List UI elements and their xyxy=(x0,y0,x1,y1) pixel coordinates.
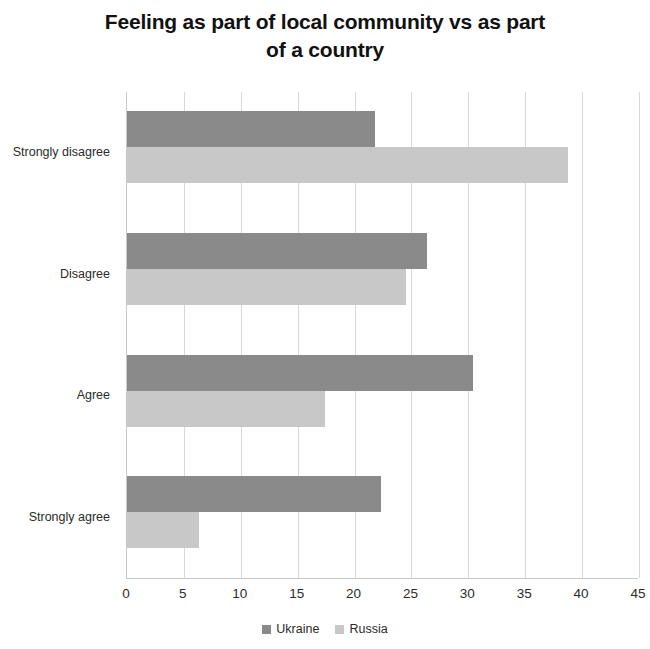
x-axis-tick-20: 20 xyxy=(346,586,361,601)
bar-ukraine-strongly-agree xyxy=(127,476,381,512)
chart-title-line-2: of a country xyxy=(55,36,595,64)
legend-swatch-icon-russia xyxy=(335,625,344,634)
legend-label-ukraine: Ukraine xyxy=(276,622,319,636)
bar-group xyxy=(127,457,638,579)
x-axis-tick-30: 30 xyxy=(460,586,475,601)
bar-russia-disagree xyxy=(127,269,406,305)
plot-area xyxy=(126,92,638,579)
legend-item-ukraine[interactable]: Ukraine xyxy=(262,622,319,636)
legend-label-russia: Russia xyxy=(349,622,387,636)
bar-russia-strongly-agree xyxy=(127,512,199,548)
bar-group xyxy=(127,214,638,336)
x-axis-tick-5: 5 xyxy=(179,586,187,601)
x-axis-tick-25: 25 xyxy=(403,586,418,601)
bar-ukraine-agree xyxy=(127,355,473,391)
x-axis-tick-45: 45 xyxy=(630,586,645,601)
bar-group xyxy=(127,92,638,214)
x-axis-tick-35: 35 xyxy=(517,586,532,601)
chart-title-line-1: Feeling as part of local community vs as… xyxy=(55,8,595,36)
gridline-45 xyxy=(639,92,640,578)
chart-legend: UkraineRussia xyxy=(0,622,650,636)
x-axis-tick-40: 40 xyxy=(574,586,589,601)
x-axis-tick-10: 10 xyxy=(232,586,247,601)
bar-ukraine-strongly-disagree xyxy=(127,111,375,147)
x-axis-tick-0: 0 xyxy=(122,586,130,601)
y-axis-category-labels: Strongly disagreeDisagreeAgreeStrongly a… xyxy=(0,92,118,579)
y-axis-label-strongly-disagree: Strongly disagree xyxy=(0,145,110,159)
legend-item-russia[interactable]: Russia xyxy=(335,622,387,636)
y-axis-label-disagree: Disagree xyxy=(0,267,110,281)
bar-chart: Feeling as part of local community vs as… xyxy=(0,0,650,649)
bar-russia-agree xyxy=(127,391,325,427)
x-axis-tick-labels: 051015202530354045 xyxy=(0,586,650,610)
chart-title: Feeling as part of local community vs as… xyxy=(55,8,595,63)
bar-groups xyxy=(127,92,638,578)
bar-ukraine-disagree xyxy=(127,233,427,269)
x-axis-tick-15: 15 xyxy=(289,586,304,601)
legend-swatch-icon-ukraine xyxy=(262,625,271,634)
bar-russia-strongly-disagree xyxy=(127,147,568,183)
bar-group xyxy=(127,336,638,458)
y-axis-label-agree: Agree xyxy=(0,388,110,402)
y-axis-label-strongly-agree: Strongly agree xyxy=(0,510,110,524)
